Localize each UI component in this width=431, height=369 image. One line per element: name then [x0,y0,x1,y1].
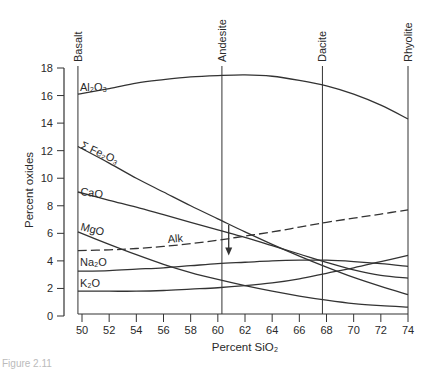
y-tick-label: 6 [47,227,53,239]
figure-caption: Figure 2.11 [2,358,52,369]
series-label-mgo: MgO [80,220,106,238]
series-label-cao: CaO [80,185,105,200]
rock-label-basalt: Basalt [72,31,84,62]
x-tick-label: 68 [320,324,332,336]
y-tick-label: 16 [41,90,53,102]
y-tick-label: 18 [41,62,53,74]
x-tick-label: 50 [76,324,88,336]
y-tick-label: 10 [41,172,53,184]
x-tick-label: 64 [266,324,278,336]
series-label-fe2o3: Σ Fe₂O₃ [79,139,120,166]
x-tick-label: 74 [402,324,414,336]
x-tick-label: 60 [212,324,224,336]
x-tick-label: 58 [185,324,197,336]
annotations [225,225,232,255]
x-tick-label: 72 [375,324,387,336]
y-tick-label: 14 [41,117,53,129]
rock-label-andesite: Andesite [216,19,228,62]
series-line-al2o3 [78,75,408,119]
arrow-down-icon [225,247,232,255]
series-label-alk: Alk [167,232,184,245]
y-tick-label: 8 [47,200,53,212]
x-tick-label: 52 [103,324,115,336]
x-tick-label: 66 [293,324,305,336]
y-tick-label: 0 [47,310,53,322]
x-tick-label: 70 [348,324,360,336]
series-line-k2o [78,255,408,291]
y-tick-label: 12 [41,145,53,157]
x-axis: 50525456586062646668707274 [76,314,414,336]
series-label-k2o: K₂O [80,277,101,289]
series-line-alk [78,210,408,251]
series-label-al2o3: Al₂O₃ [80,81,107,93]
oxide-variation-chart: 024681012141618 505254565860626466687072… [0,0,431,369]
series-lines [78,75,408,307]
y-tick-label: 2 [47,282,53,294]
series-label-na2o: Na₂O [80,256,107,268]
x-tick-label: 56 [157,324,169,336]
y-axis-title: Percent oxides [23,152,35,228]
x-tick-label: 54 [130,324,142,336]
x-tick-label: 62 [239,324,251,336]
chart-canvas: 024681012141618 505254565860626466687072… [0,0,431,369]
x-axis-title: Percent SiO₂ [212,341,278,353]
y-tick-label: 4 [47,255,53,267]
series-line-fe2o3 [78,147,408,295]
rock-label-rhyolite: Rhyolite [402,22,414,62]
series-line-na2o [78,260,408,271]
rock-label-dacite: Dacite [316,31,328,62]
series-labels: Al₂O₃Σ Fe₂O₃CaOMgOAlkNa₂OK₂O [79,81,184,289]
series-line-cao [78,192,408,278]
y-axis: 024681012141618 [41,62,64,322]
